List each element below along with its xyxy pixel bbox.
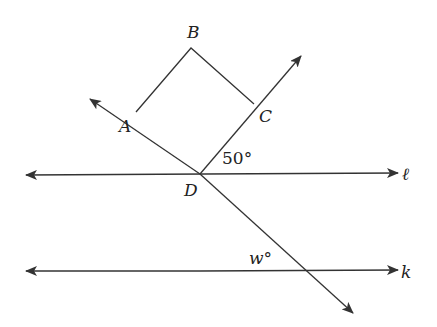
angle-50-label: 50° xyxy=(222,148,252,168)
label-b: B xyxy=(186,22,200,42)
line-l xyxy=(26,173,398,175)
line-k-label: k xyxy=(401,262,411,282)
label-d: D xyxy=(183,180,198,200)
line-l-label: ℓ xyxy=(402,164,409,184)
label-c: C xyxy=(259,106,272,126)
geometry-diagram: B A C D 50° ℓ k w° xyxy=(0,0,437,327)
label-a: A xyxy=(117,116,131,136)
angle-w-label: w° xyxy=(249,248,272,268)
square-abcd-sides xyxy=(136,48,254,112)
line-k xyxy=(26,270,398,271)
